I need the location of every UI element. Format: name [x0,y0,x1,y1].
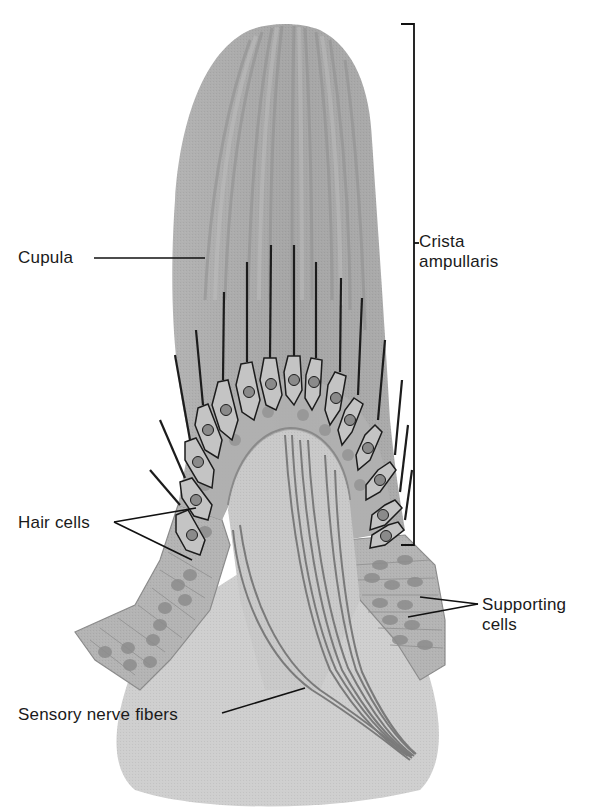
crista-ampullaris-illustration [0,0,608,812]
label-hair-cells: Hair cells [18,513,90,533]
label-crista-line2: ampullaris [419,252,498,272]
label-cupula: Cupula [18,248,73,268]
label-supporting-cells: Supporting cells [482,595,566,635]
label-crista-line1: Crista [419,232,498,252]
label-crista-ampullaris: Crista ampullaris [419,232,498,272]
label-supporting-line1: Supporting [482,595,566,615]
label-supporting-line2: cells [482,615,566,635]
label-sensory-nerve-fibers: Sensory nerve fibers [18,705,178,725]
